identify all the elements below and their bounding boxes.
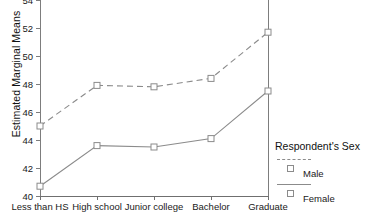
data-point-marker bbox=[94, 82, 100, 88]
y-tick-label: 42 bbox=[22, 163, 33, 174]
series-line-male bbox=[40, 32, 268, 126]
legend-line-solid-icon bbox=[277, 184, 311, 185]
data-point-marker bbox=[265, 29, 271, 35]
legend-label-female: Female bbox=[303, 193, 335, 204]
x-tick-label: Bachelor bbox=[192, 201, 230, 212]
legend-square-marker-icon bbox=[287, 165, 294, 172]
y-axis-title: Estimated Marginal Means bbox=[10, 0, 22, 154]
x-tick-label: Junior college bbox=[125, 201, 184, 212]
data-point-marker bbox=[151, 84, 157, 90]
y-tick-label: 52 bbox=[22, 23, 33, 34]
legend-item-female[interactable]: Female bbox=[275, 182, 366, 207]
series-plot bbox=[40, 0, 268, 196]
legend-item-male[interactable]: Male bbox=[275, 157, 366, 182]
x-tick bbox=[154, 196, 155, 200]
data-point-marker bbox=[37, 123, 43, 129]
x-tick bbox=[97, 196, 98, 200]
y-tick-label: 50 bbox=[22, 51, 33, 62]
legend-line-dashed-icon bbox=[277, 159, 311, 160]
series-line-female bbox=[40, 91, 268, 186]
legend-label-male: Male bbox=[303, 168, 324, 179]
x-tick-label: Less than HS bbox=[11, 201, 68, 212]
legend: Respondent's Sex Male Female bbox=[275, 140, 366, 207]
y-tick-label: 44 bbox=[22, 135, 33, 146]
data-point-marker bbox=[208, 75, 214, 81]
data-point-marker bbox=[94, 143, 100, 149]
data-point-marker bbox=[151, 144, 157, 150]
x-tick-label: High school bbox=[72, 201, 122, 212]
y-tick-label: 54 bbox=[22, 0, 33, 6]
data-point-marker bbox=[265, 88, 271, 94]
legend-square-marker-icon bbox=[287, 190, 294, 197]
data-point-marker bbox=[37, 183, 43, 189]
x-tick bbox=[268, 196, 269, 200]
y-tick-label: 48 bbox=[22, 79, 33, 90]
y-tick-label: 40 bbox=[22, 191, 33, 202]
y-tick-label: 46 bbox=[22, 107, 33, 118]
x-tick bbox=[211, 196, 212, 200]
plot-area: 4042444648505254 Less than HSHigh school… bbox=[40, 0, 268, 196]
chart-figure: Estimated Marginal Means 404244464850525… bbox=[0, 0, 366, 219]
x-tick bbox=[40, 196, 41, 200]
data-point-marker bbox=[208, 136, 214, 142]
legend-title: Respondent's Sex bbox=[275, 140, 366, 152]
